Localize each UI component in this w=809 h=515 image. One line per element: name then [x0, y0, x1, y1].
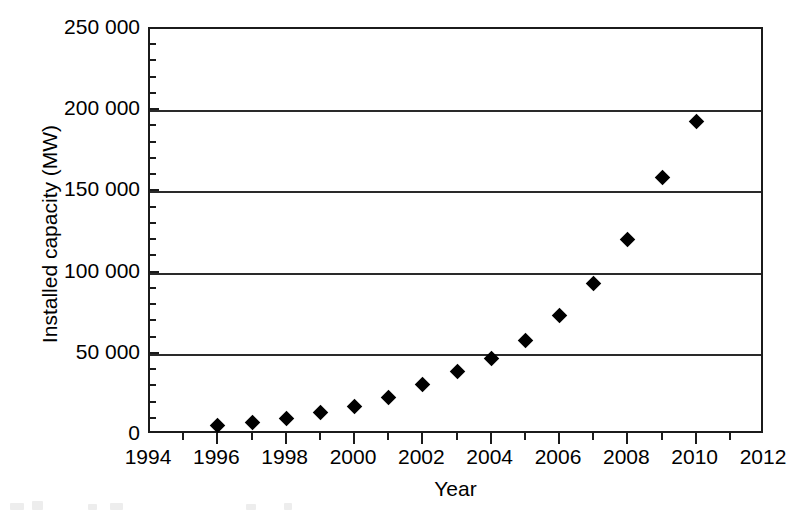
- x-axis-minor-tick: [251, 433, 253, 440]
- x-axis-minor-tick: [387, 433, 389, 440]
- scan-artifact: [32, 501, 43, 510]
- scan-artifact: [10, 503, 24, 510]
- y-axis-major-tick: [148, 189, 159, 191]
- y-axis-minor-tick: [148, 141, 156, 143]
- x-axis-major-tick: [353, 433, 355, 444]
- data-point-marker: [415, 376, 431, 392]
- chart-figure: 050 000100 000150 000200 000250 000 1994…: [0, 0, 809, 515]
- y-axis-minor-tick: [148, 401, 156, 403]
- y-axis-major-tick: [148, 352, 159, 354]
- x-axis-major-tick: [216, 433, 218, 444]
- y-axis-tick-label: 0: [20, 422, 140, 443]
- y-axis-minor-tick: [148, 92, 156, 94]
- x-axis-major-tick: [558, 433, 560, 444]
- data-point-marker: [278, 410, 294, 426]
- y-axis-minor-tick: [148, 43, 156, 45]
- y-axis-minor-tick: [148, 303, 156, 305]
- y-axis-minor-tick: [148, 336, 156, 338]
- y-axis-minor-tick: [148, 254, 156, 256]
- y-axis-minor-tick: [148, 368, 156, 370]
- data-point-marker: [210, 418, 226, 434]
- y-axis-title: Installed capacity (MW): [38, 64, 62, 404]
- y-axis-minor-tick: [148, 222, 156, 224]
- y-axis-minor-tick: [148, 417, 156, 419]
- x-axis-title: Year: [148, 477, 763, 501]
- plot-area: [148, 27, 763, 433]
- y-axis-minor-tick: [148, 124, 156, 126]
- x-axis-tick-label: 2012: [723, 446, 803, 468]
- data-point-marker: [244, 415, 260, 431]
- y-axis-minor-tick: [148, 238, 156, 240]
- x-axis-minor-tick: [182, 433, 184, 440]
- gridline: [150, 191, 761, 193]
- y-axis-minor-tick: [148, 157, 156, 159]
- y-axis-minor-tick: [148, 319, 156, 321]
- data-point-marker: [688, 113, 704, 129]
- x-axis-minor-tick: [592, 433, 594, 440]
- y-axis-major-tick: [148, 271, 159, 273]
- x-axis-minor-tick: [524, 433, 526, 440]
- x-axis-major-tick: [421, 433, 423, 444]
- data-point-marker: [449, 363, 465, 379]
- data-point-marker: [620, 232, 636, 248]
- x-axis-major-tick: [626, 433, 628, 444]
- data-point-marker: [552, 308, 568, 324]
- scan-artifact: [246, 504, 256, 510]
- gridline: [150, 354, 761, 356]
- scan-artifact: [110, 503, 123, 510]
- y-axis-tick-label: 250 000: [20, 16, 140, 37]
- scan-artifact: [88, 504, 97, 510]
- data-point-marker: [313, 405, 329, 421]
- data-point-marker: [586, 276, 602, 292]
- y-axis-major-tick: [148, 108, 159, 110]
- x-axis-major-tick: [285, 433, 287, 444]
- x-axis-minor-tick: [661, 433, 663, 440]
- y-axis-minor-tick: [148, 287, 156, 289]
- gridline: [150, 110, 761, 112]
- y-axis-minor-tick: [148, 173, 156, 175]
- data-point-marker: [347, 399, 363, 415]
- data-point-marker: [654, 170, 670, 186]
- x-axis-minor-tick: [456, 433, 458, 440]
- x-axis-minor-tick: [729, 433, 731, 440]
- y-axis-minor-tick: [148, 384, 156, 386]
- x-axis-minor-tick: [319, 433, 321, 440]
- data-point-marker: [483, 350, 499, 366]
- y-axis-minor-tick: [148, 59, 156, 61]
- x-axis-major-tick: [490, 433, 492, 444]
- y-axis-minor-tick: [148, 76, 156, 78]
- x-axis-major-tick: [695, 433, 697, 444]
- data-point-marker: [381, 389, 397, 405]
- data-point-marker: [518, 333, 534, 349]
- y-axis-minor-tick: [148, 206, 156, 208]
- scan-artifact: [284, 503, 292, 510]
- gridline: [150, 273, 761, 275]
